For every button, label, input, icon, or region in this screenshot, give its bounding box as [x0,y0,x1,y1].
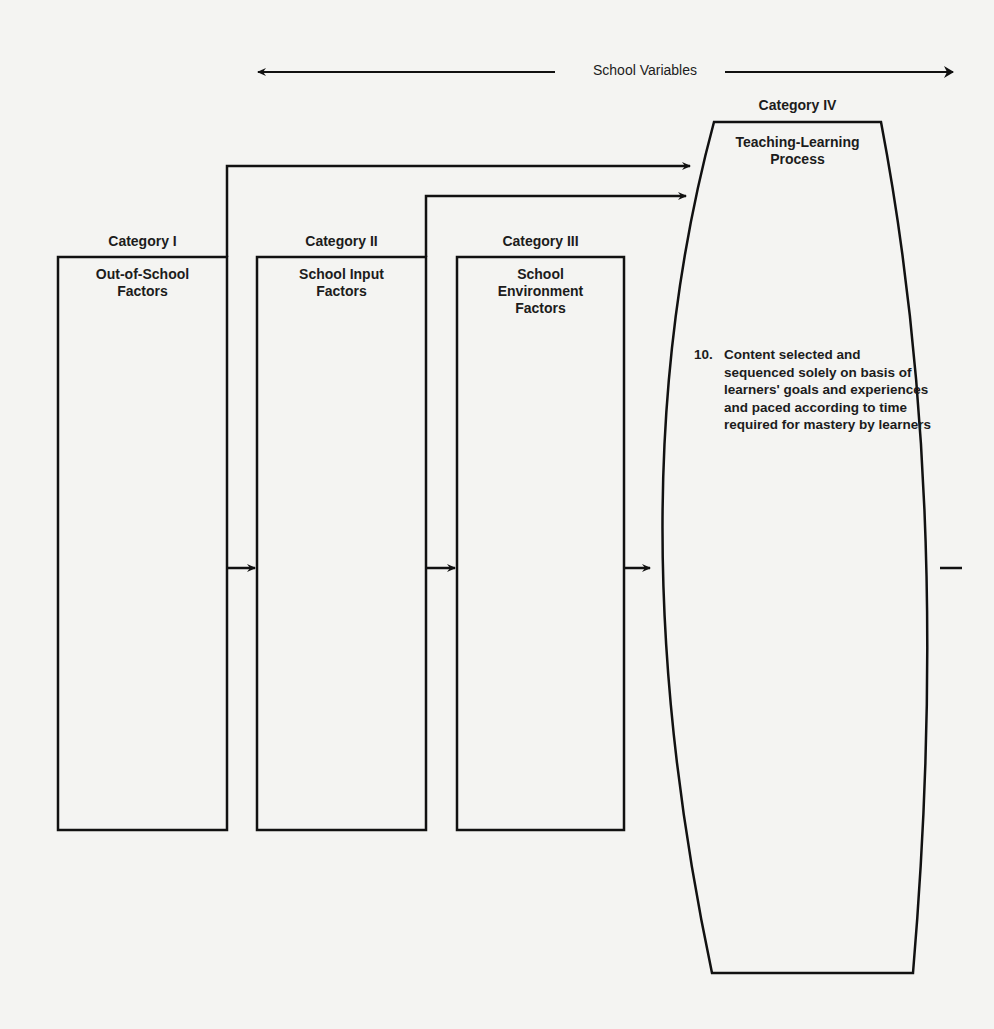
process-item-10: 10. Content selected and sequenced solel… [694,346,934,434]
category-4-title: Teaching-Learning Process [714,134,881,168]
category-1-title: Out-of-School Factors [58,266,227,300]
category-4-shape [662,122,927,973]
category-1-label: Category I [58,233,227,250]
school-variables-label: School Variables [565,62,725,78]
category-2-label: Category II [257,233,426,250]
category-3-box [457,257,624,830]
item-text: Content selected and sequenced solely on… [724,346,934,434]
category-1-box [58,257,227,830]
category-3-title: School Environment Factors [457,266,624,317]
item-number: 10. [694,346,724,434]
category-4-label: Category IV [714,97,881,114]
category-3-label: Category III [457,233,624,250]
category-2-box [257,257,426,830]
category-2-title: School Input Factors [257,266,426,300]
